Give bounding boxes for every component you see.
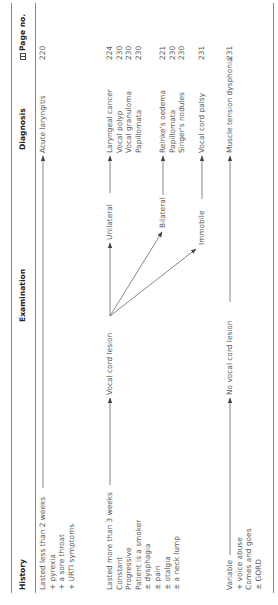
rotated-page: History Examination Diagnosis Page no. L… [0, 0, 278, 605]
flow-arrows [0, 0, 278, 605]
arrow-lesion-to-immobile [110, 249, 196, 316]
arrow-lesion-to-bilateral [110, 232, 162, 316]
